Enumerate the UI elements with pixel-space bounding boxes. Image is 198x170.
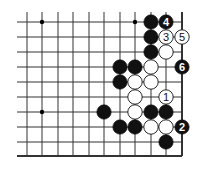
move-number-label: 1 xyxy=(163,91,169,103)
go-board: 435612 xyxy=(0,0,198,170)
black-stone xyxy=(159,105,173,119)
black-stone xyxy=(113,60,127,74)
black-stone xyxy=(144,15,158,29)
black-stone xyxy=(113,75,127,89)
black-stone xyxy=(144,105,158,119)
white-stone xyxy=(159,120,173,134)
white-stone xyxy=(144,60,158,74)
black-stone: 6 xyxy=(175,60,189,74)
black-stone xyxy=(97,105,111,119)
white-stone xyxy=(128,90,142,104)
move-number-label: 5 xyxy=(179,31,185,43)
white-stone xyxy=(128,75,142,89)
white-stone xyxy=(159,45,173,59)
black-stone xyxy=(128,120,142,134)
star-point xyxy=(133,20,137,24)
white-stone xyxy=(144,75,158,89)
black-stone xyxy=(144,45,158,59)
white-stone: 1 xyxy=(159,90,173,104)
move-number-label: 2 xyxy=(179,121,185,133)
white-stone: 5 xyxy=(175,30,189,44)
move-number-label: 4 xyxy=(163,16,170,28)
white-stone xyxy=(128,105,142,119)
black-stone xyxy=(113,120,127,134)
white-stone: 3 xyxy=(159,30,173,44)
black-stone: 4 xyxy=(159,15,173,29)
black-stone xyxy=(144,30,158,44)
star-point xyxy=(40,110,44,114)
white-stone xyxy=(144,120,158,134)
black-stone xyxy=(159,135,173,149)
move-number-label: 6 xyxy=(179,61,185,73)
black-stone xyxy=(128,60,142,74)
star-point xyxy=(40,20,44,24)
black-stone: 2 xyxy=(175,120,189,134)
move-number-label: 3 xyxy=(163,31,169,43)
